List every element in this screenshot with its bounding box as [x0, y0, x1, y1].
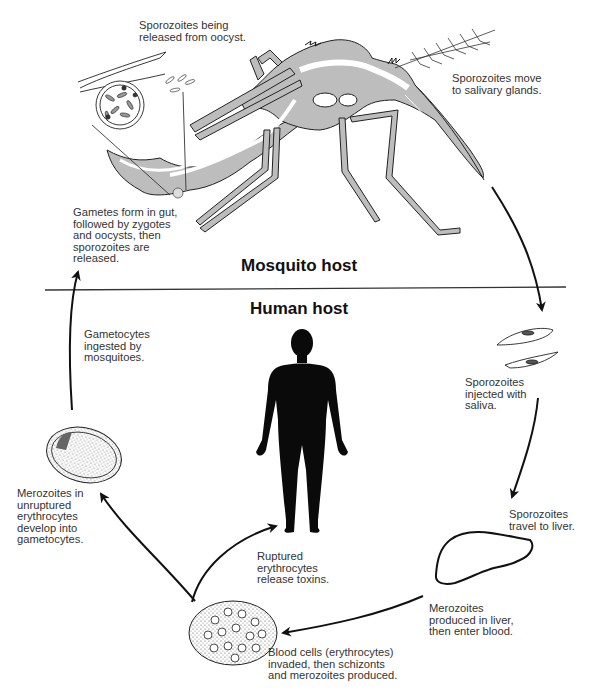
arrow-mosquito-to-human: [492, 187, 542, 310]
label-gametes-gut: Gametes form in gut, followed by zygotes…: [73, 207, 177, 265]
human-silhouette-icon: [256, 329, 348, 533]
label-gametocytes-ingested: Gametocytes ingested by mosquitoes.: [84, 329, 150, 364]
mosquito-illustration: [107, 29, 495, 235]
arrow-injected-to-liver: [512, 398, 538, 497]
arrow-liver-to-blood: [283, 596, 423, 633]
label-ruptured-toxins: Ruptured erythrocytes release toxins.: [257, 551, 329, 586]
liver-icon: [436, 532, 532, 584]
label-merozoites-unruptured: Merozoites in unruptured erythrocytes de…: [17, 488, 84, 546]
label-travel-liver: Sporozoites travel to liver.: [509, 509, 575, 532]
label-injected-saliva: Sporozoites injected with saliva.: [465, 377, 527, 412]
human-host-title: Human host: [250, 299, 348, 319]
label-salivary-glands: Sporozoites move to salivary glands.: [452, 73, 542, 96]
gametocyte-cell-icon: [40, 419, 127, 491]
label-blood-cells-invaded: Blood cells (erythrocytes) invaded, then…: [268, 647, 397, 682]
label-sporozoites-released: Sporozoites being released from oocyst.: [139, 20, 246, 43]
sporozoites-icon: [497, 328, 558, 368]
arrow-gametocyte-to-mosquito: [70, 272, 78, 410]
label-merozoites-liver: Merozoites produced in liver, then enter…: [429, 603, 514, 638]
mosquito-host-title: Mosquito host: [241, 256, 357, 276]
infected-blood-cells-icon: [189, 601, 277, 665]
arrow-blood-to-gametocyte: [101, 494, 195, 601]
host-divider: [45, 287, 566, 290]
